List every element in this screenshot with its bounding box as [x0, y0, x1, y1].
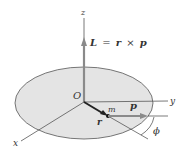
- eq-p: p: [140, 37, 147, 48]
- eq-r: r: [116, 37, 122, 48]
- angular-momentum-equation: L = r × p: [89, 37, 147, 48]
- angular-momentum-arrowhead: [81, 37, 87, 46]
- phi-label: ϕ: [153, 125, 160, 136]
- eq-equals: =: [102, 37, 110, 48]
- eq-L: L: [89, 37, 97, 48]
- momentum-label: p: [130, 100, 137, 111]
- angular-momentum-diagram: z y x O m r p ϕ L = r × p: [0, 0, 187, 154]
- x-axis-label: x: [13, 138, 18, 148]
- y-axis-label: y: [169, 96, 176, 106]
- eq-times: ×: [126, 37, 134, 48]
- z-axis-label: z: [80, 8, 86, 17]
- origin-label: O: [73, 90, 81, 101]
- mass-label: m: [108, 105, 116, 114]
